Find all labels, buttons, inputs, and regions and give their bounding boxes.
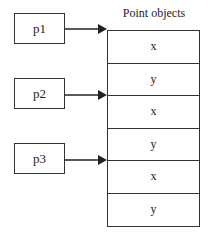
arrowhead-icon <box>98 24 107 34</box>
arrowhead-icon <box>98 90 107 100</box>
arrows <box>0 0 210 233</box>
arrowhead-icon <box>98 155 107 165</box>
